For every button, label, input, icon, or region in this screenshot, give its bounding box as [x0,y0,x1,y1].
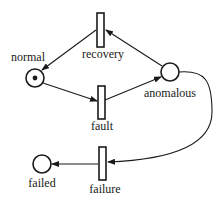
transition-recovery-bar [97,13,104,47]
place-failed: failed [28,155,55,190]
transition-fault-label: fault [91,119,114,133]
token [33,76,38,81]
transition-recovery-label: recovery [82,47,124,61]
place-normal: normal [11,50,46,87]
transition-failure: failure [89,147,120,196]
transition-failure-bar [99,147,106,180]
place-anomalous-circle [161,63,179,81]
place-anomalous-label: anomalous [144,86,196,100]
transition-fault-bar [98,86,105,119]
petri-net-diagram: normal anomalous failed recovery fault f… [0,0,223,204]
place-anomalous: anomalous [144,63,196,100]
arc-normal-to-fault [43,83,97,101]
place-failed-circle [33,155,51,173]
place-failed-label: failed [28,176,55,190]
transition-failure-label: failure [89,182,120,196]
place-normal-label: normal [11,50,46,64]
transition-fault: fault [91,86,114,133]
